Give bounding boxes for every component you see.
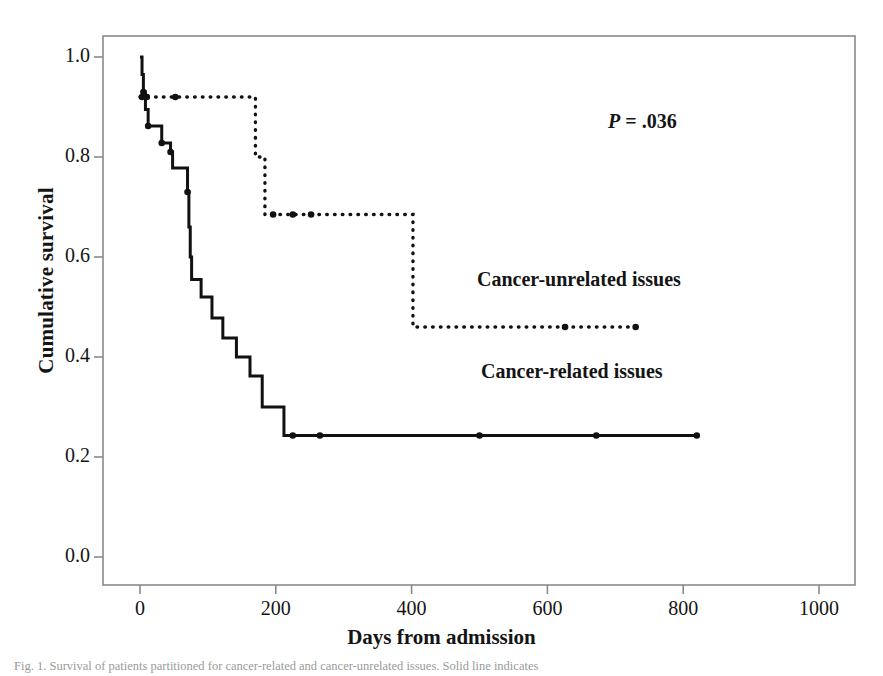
survival-figure: Cumulative survival Days from admission … [0, 0, 883, 676]
series-label-cancer-related: Cancer-related issues [481, 360, 663, 383]
y-tick-label: 0.4 [34, 344, 90, 367]
x-tick-label: 400 [377, 597, 447, 620]
p-number: .036 [642, 110, 677, 132]
plot-frame [103, 36, 855, 585]
figure-caption: Fig. 1. Survival of patients partitioned… [14, 659, 874, 674]
x-tick-label: 0 [105, 597, 175, 620]
censor-marks [139, 89, 700, 439]
y-tick-label: 0.2 [34, 444, 90, 467]
series-label-cancer-unrelated: Cancer-unrelated issues [477, 268, 681, 291]
y-tick-label: 1.0 [34, 44, 90, 67]
y-tick-label: 0.6 [34, 244, 90, 267]
p-value-annotation: P = .036 [608, 110, 677, 133]
kaplan-meier-plot [0, 0, 883, 676]
y-tick-label: 0.0 [34, 544, 90, 567]
x-tick-label: 200 [241, 597, 311, 620]
p-equals: = [620, 110, 641, 132]
y-tick-label: 0.8 [34, 144, 90, 167]
x-axis-title: Days from admission [0, 625, 883, 650]
p-symbol: P [608, 110, 620, 132]
x-tick-label: 600 [512, 597, 582, 620]
x-tick-label: 1000 [784, 597, 854, 620]
x-tick-label: 800 [648, 597, 718, 620]
